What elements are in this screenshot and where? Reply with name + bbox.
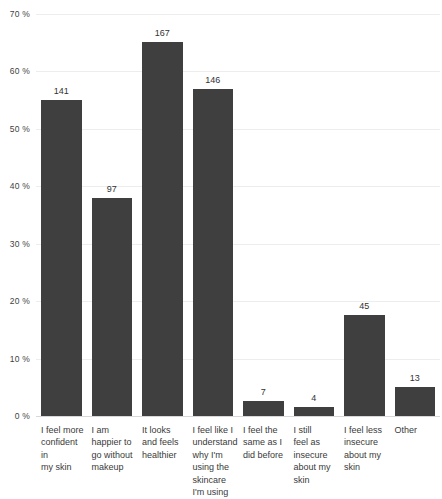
category-label-line: and feels <box>142 436 187 448</box>
y-axis-tick-label: 0 % <box>15 411 30 421</box>
category-label-line: about my <box>294 461 339 473</box>
bar-value-label: 167 <box>142 28 183 39</box>
bar-value-label: 146 <box>193 75 234 86</box>
category-label-line: my skin <box>41 461 86 473</box>
category-label-line: confident in <box>41 436 86 461</box>
category-label-line: I am <box>92 424 137 436</box>
bar-group[interactable]: 7 <box>238 14 289 416</box>
category-label-line: go without <box>92 449 137 461</box>
category-label: I feel moreconfident inmy skin <box>41 424 86 474</box>
bar-chart: 70 %60 %50 %40 %30 %20 %10 %0 % 14197167… <box>0 0 442 499</box>
bar-value-label: 13 <box>395 373 436 384</box>
bar-group[interactable]: 97 <box>87 14 138 416</box>
bar[interactable] <box>294 407 335 416</box>
bar[interactable] <box>344 315 385 416</box>
category-label-line: did before <box>243 449 288 461</box>
category-label-line: Other <box>395 424 440 436</box>
bar-value-label: 4 <box>294 393 335 404</box>
category-label-line: I feel less <box>344 424 389 436</box>
bar[interactable] <box>142 42 183 416</box>
category-label: I feel like Iunderstandwhy I'musing thes… <box>193 424 238 498</box>
bar-group[interactable]: 141 <box>36 14 87 416</box>
category-label-line: I feel more <box>41 424 86 436</box>
bar-group[interactable]: 146 <box>188 14 239 416</box>
category-label-line: insecure <box>344 436 389 448</box>
category-label-line: I still <box>294 424 339 436</box>
y-axis-tick-label: 40 % <box>10 181 30 191</box>
category-labels-layer: I feel moreconfident inmy skinI amhappie… <box>36 424 440 499</box>
bar-value-label: 7 <box>243 387 284 398</box>
bar-value-label: 45 <box>344 301 385 312</box>
bar-group[interactable]: 167 <box>137 14 188 416</box>
y-axis-tick-label: 60 % <box>10 66 30 76</box>
gridline-0 <box>36 416 440 417</box>
bar[interactable] <box>193 89 234 416</box>
category-label: It looksand feelshealthier <box>142 424 187 461</box>
category-label-line: healthier <box>142 449 187 461</box>
category-label-line: I feel the <box>243 424 288 436</box>
category-label-line: why I'm <box>193 449 238 461</box>
category-label-line: skin <box>344 461 389 473</box>
bar-value-label: 97 <box>92 184 133 195</box>
category-label-line: makeup <box>92 461 137 473</box>
bar[interactable] <box>395 387 436 416</box>
bar-value-label: 141 <box>41 86 82 97</box>
plot-area: 70 %60 %50 %40 %30 %20 %10 %0 % 14197167… <box>36 14 440 416</box>
category-label-line: understand <box>193 436 238 448</box>
bars-layer: 14197167146744513 <box>36 14 440 416</box>
category-label-line: feel as <box>294 436 339 448</box>
category-label-line: skincare <box>193 474 238 486</box>
category-label: I feel thesame as Idid before <box>243 424 288 461</box>
category-label: I stillfeel asinsecureabout myskin <box>294 424 339 486</box>
bar-group[interactable]: 45 <box>339 14 390 416</box>
category-label-line: I'm using <box>193 486 238 498</box>
category-label-line: I feel like I <box>193 424 238 436</box>
bar[interactable] <box>243 401 284 417</box>
category-label-line: about my <box>344 449 389 461</box>
y-axis-tick-label: 50 % <box>10 124 30 134</box>
category-label-line: insecure <box>294 449 339 461</box>
bar[interactable] <box>41 100 82 416</box>
category-label-line: It looks <box>142 424 187 436</box>
category-label-line: using the <box>193 461 238 473</box>
category-label-line: same as I <box>243 436 288 448</box>
category-label-line: skin <box>294 474 339 486</box>
category-label: I feel lessinsecureabout myskin <box>344 424 389 474</box>
y-axis-tick-label: 70 % <box>10 9 30 19</box>
category-label: Other <box>395 424 440 436</box>
bar-group[interactable]: 4 <box>289 14 340 416</box>
y-axis-tick-label: 10 % <box>10 354 30 364</box>
category-label-line: happier to <box>92 436 137 448</box>
bar[interactable] <box>92 198 133 416</box>
bar-group[interactable]: 13 <box>390 14 441 416</box>
category-label: I amhappier togo withoutmakeup <box>92 424 137 474</box>
y-axis-tick-label: 20 % <box>10 296 30 306</box>
y-axis-tick-label: 30 % <box>10 239 30 249</box>
